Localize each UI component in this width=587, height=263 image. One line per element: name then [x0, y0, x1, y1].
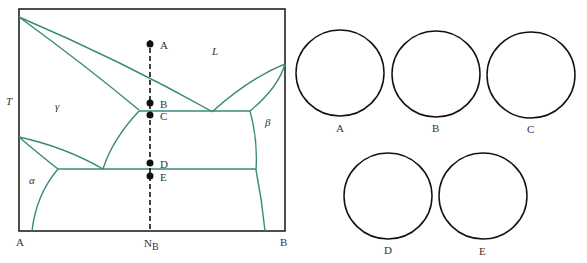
point-a-marker [147, 41, 154, 48]
point-e-label: E [160, 171, 167, 183]
phase-diagram-figure: A B C D E L γ β α T A B NB A B C D E [0, 0, 587, 263]
phase-gamma-label: γ [55, 100, 60, 112]
circle-e-label: E [479, 245, 486, 257]
circle-b [392, 31, 480, 117]
circle-c [487, 32, 575, 118]
circle-a-label: A [336, 122, 344, 134]
point-d-marker [147, 160, 154, 167]
point-d-label: D [160, 158, 168, 170]
point-b-label: B [160, 98, 167, 110]
temperature-axis-label: T [6, 95, 13, 107]
circle-d-label: D [384, 244, 392, 256]
circle-d [344, 153, 432, 239]
circle-b-label: B [432, 122, 439, 134]
state-points [147, 41, 154, 180]
circle-e [439, 153, 527, 239]
point-c-label: C [160, 110, 167, 122]
solidus-beta [250, 64, 285, 111]
phase-boundaries [19, 17, 285, 231]
composition-marker-main: N [144, 237, 152, 249]
point-e-marker [147, 173, 154, 180]
phase-beta-label: β [264, 116, 271, 128]
x-axis-left-label: A [16, 236, 24, 248]
liquidus-right [213, 64, 285, 111]
lens-upper [19, 137, 103, 169]
solvus-beta [250, 111, 265, 231]
point-b-marker [147, 100, 154, 107]
liquidus-left [19, 17, 213, 112]
circle-a [296, 30, 384, 116]
phase-liquid-label: L [211, 45, 218, 57]
composition-marker-label: NB [144, 237, 159, 252]
point-c-marker [147, 112, 154, 119]
circle-c-label: C [527, 123, 534, 135]
gamma-boundary-lower [103, 111, 139, 169]
phase-alpha-label: α [29, 174, 35, 186]
composition-marker-sub: B [152, 241, 159, 252]
x-axis-right-label: B [280, 236, 287, 248]
point-a-label: A [160, 39, 168, 51]
solvus-alpha [32, 169, 58, 231]
